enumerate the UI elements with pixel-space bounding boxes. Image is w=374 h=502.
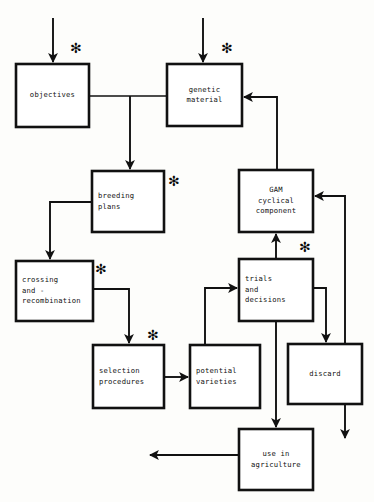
node-box-use[interactable]	[239, 429, 313, 490]
flowchart-connectors	[0, 0, 374, 502]
edge-potential-trials	[205, 288, 237, 345]
node-box-discard[interactable]	[288, 344, 362, 404]
edge-gam-genetic	[244, 97, 277, 170]
node-box-genetic[interactable]	[167, 64, 242, 126]
node-box-gam[interactable]	[239, 170, 313, 232]
edge-breeding-crossing	[50, 202, 92, 259]
edge-trials-discard	[313, 288, 326, 342]
edge-crossing-selection	[93, 289, 129, 343]
node-box-crossing[interactable]	[16, 261, 93, 321]
flowchart-canvas: objectivesgeneticmaterialbreedingplansGA…	[0, 0, 374, 502]
node-box-objectives[interactable]	[16, 64, 89, 127]
node-box-trials[interactable]	[239, 259, 313, 321]
node-box-potential[interactable]	[190, 345, 260, 408]
node-box-breeding[interactable]	[92, 171, 164, 232]
node-box-selection[interactable]	[93, 345, 164, 408]
